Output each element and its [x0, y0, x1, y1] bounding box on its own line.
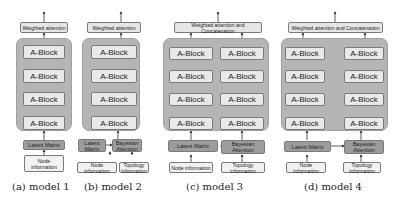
model3-bayesian-attention: Bayesian Attention	[221, 140, 265, 154]
model3-left-a-block-4: A-Block	[169, 47, 213, 60]
model4-topology-information: Topology information	[343, 162, 381, 173]
model4-right-a-block-1: A-Block	[344, 117, 384, 130]
model3-right-a-block-1: A-Block	[220, 117, 264, 130]
model2-a-block-3: A-Block	[91, 69, 137, 83]
model4-bayesian-attention: Bayesian Attention	[344, 140, 384, 154]
model2-a-block-2: A-Block	[91, 92, 137, 106]
model3-left-a-block-1: A-Block	[169, 117, 213, 130]
model3-right-a-block-3: A-Block	[220, 70, 264, 83]
model1-a-block-4: A-Block	[23, 45, 65, 59]
model4-node-information: Node information	[286, 162, 326, 173]
model4-right-a-block-4: A-Block	[344, 47, 384, 60]
model4-left-a-block-4: A-Block	[285, 47, 325, 60]
model4-left-a-block-2: A-Block	[285, 93, 325, 106]
model3-left-a-block-3: A-Block	[169, 70, 213, 83]
model2-node-information: Node information	[77, 162, 117, 173]
model1-node-information: Node information	[24, 155, 64, 172]
caption-model-2: (b) model 2	[84, 181, 142, 192]
model3-topology-information: Topology information	[221, 162, 265, 173]
model2-topology-information: Topology information	[119, 162, 149, 173]
model4-right-a-block-3: A-Block	[344, 70, 384, 83]
model4-left-a-block-1: A-Block	[285, 117, 325, 130]
model2-weighted-attention: Weighted attention	[87, 22, 141, 33]
model1-a-block-1: A-Block	[23, 116, 65, 130]
model4-left-a-block-3: A-Block	[285, 70, 325, 83]
caption-model-3: (c) model 3	[186, 181, 243, 192]
model2-a-block-4: A-Block	[91, 45, 137, 59]
model1-a-block-3: A-Block	[23, 69, 65, 83]
model2-bayesian-attention: Bayesian Attention	[112, 139, 142, 152]
model3-right-a-block-2: A-Block	[220, 93, 264, 106]
model4-weighted-attention-concat: Weighted attention and Concatenation	[288, 22, 383, 33]
model3-node-information: Node information	[169, 162, 213, 173]
model3-left-a-block-2: A-Block	[169, 93, 213, 106]
model1-latent-matrix: Latent Matrix	[23, 140, 65, 150]
model4-right-a-block-2: A-Block	[344, 93, 384, 106]
model2-a-block-1: A-Block	[91, 116, 137, 130]
model4-latent-matrix: Latent Matrix	[284, 141, 331, 152]
model3-weighted-attention-concat: Weighted attention and Concatenation	[174, 22, 262, 33]
model3-right-a-block-4: A-Block	[220, 47, 264, 60]
caption-model-1: (a) model 1	[12, 181, 70, 192]
model1-weighted-attention: Weighted attention	[20, 22, 68, 33]
model1-a-block-2: A-Block	[23, 92, 65, 106]
model2-latent-matrix: Latent Matrix	[78, 139, 106, 152]
caption-model-4: (d) model 4	[304, 181, 362, 192]
model3-latent-matrix: Latent Matrix	[168, 140, 218, 152]
